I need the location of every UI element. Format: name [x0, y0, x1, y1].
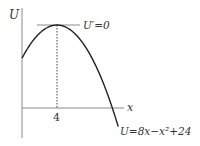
parabola-curve	[22, 25, 118, 127]
y-axis-label: U	[9, 8, 20, 22]
function-graph: U x 4 U′=0 U=8x−x²+24	[0, 0, 200, 146]
curve-equation-label: U=8x−x²+24	[120, 125, 191, 137]
tangent-label: U′=0	[83, 19, 110, 31]
x-axis-label: x	[127, 101, 134, 114]
x-tick-label: 4	[53, 111, 60, 124]
